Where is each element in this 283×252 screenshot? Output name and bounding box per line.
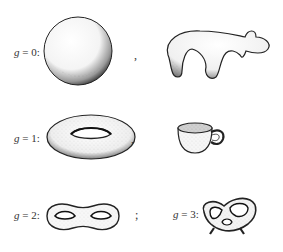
separator-0: , — [134, 48, 137, 63]
double-torus-icon — [43, 200, 123, 234]
separator-2: ; — [135, 208, 138, 223]
pretzel-icon — [196, 194, 262, 240]
genus-label-3: g = 3: — [173, 208, 199, 220]
genus-var: g — [173, 208, 179, 220]
torus-icon — [45, 112, 137, 162]
genus-var: g — [14, 132, 20, 144]
coffee-cup-icon — [175, 120, 230, 156]
genus-label-1: g = 1: — [14, 132, 40, 144]
sphere-icon — [42, 15, 114, 87]
genus-var: g — [14, 209, 20, 221]
genus-var: g — [14, 46, 20, 58]
genus-value: = 0: — [22, 46, 40, 58]
genus-label-0: g = 0: — [14, 46, 40, 58]
genus-label-2: g = 2: — [14, 209, 40, 221]
blob-icon — [160, 25, 270, 85]
separator-1: , — [131, 132, 134, 147]
genus-value: = 1: — [22, 132, 40, 144]
genus-value: = 2: — [22, 209, 40, 221]
